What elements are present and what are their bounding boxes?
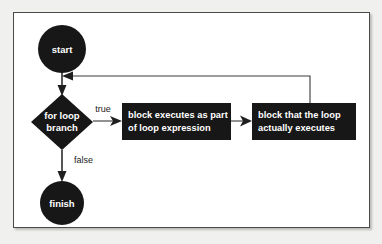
node-finish-label: finish bbox=[49, 198, 75, 209]
node-finish[interactable]: finish bbox=[40, 181, 84, 225]
node-loop-body-label-line1: block that the loop bbox=[258, 110, 341, 120]
edge-branch-true-to-loop-expression bbox=[93, 116, 122, 126]
edge-label-false: false bbox=[74, 155, 93, 165]
node-for-loop-branch[interactable]: for loop branch bbox=[31, 94, 93, 150]
node-start-label: start bbox=[52, 44, 73, 55]
node-branch-label-line1: for loop bbox=[44, 110, 80, 121]
edge-loop-expression-to-loop-body bbox=[231, 116, 252, 127]
edge-label-true: true bbox=[95, 104, 111, 114]
flowchart-canvas: start for loop branch true false block e… bbox=[0, 0, 382, 244]
node-loop-body-block[interactable]: block that the loop actually executes bbox=[252, 103, 356, 140]
node-branch-label-line2: branch bbox=[46, 122, 78, 133]
node-loop-expression-label-line1: block executes as part bbox=[128, 110, 228, 120]
node-loop-expression-label-line2: of loop expression bbox=[128, 123, 211, 133]
node-loop-expression-block[interactable]: block executes as part of loop expressio… bbox=[122, 103, 231, 140]
node-loop-body-label-line2: actually executes bbox=[258, 123, 335, 133]
edge-branch-false-to-finish bbox=[58, 150, 67, 182]
node-start[interactable]: start bbox=[38, 25, 86, 73]
flowchart-page: start for loop branch true false block e… bbox=[0, 0, 382, 244]
